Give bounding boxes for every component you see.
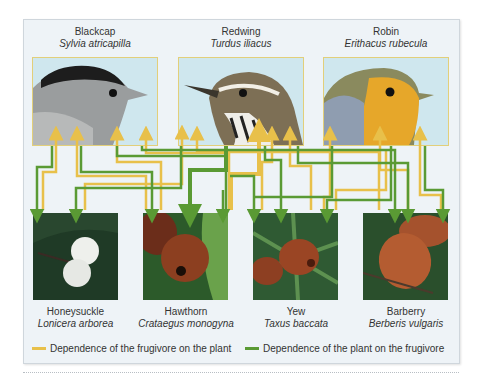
plant-scientific-name: Berberis vulgaris <box>355 318 457 330</box>
plant-scientific-name: Crataegus monogyna <box>128 318 244 330</box>
plant-common-name: Barberry <box>355 306 457 318</box>
plant-label-barberry: Barberry Berberis vulgaris <box>355 306 457 330</box>
green-swatch-icon <box>245 347 259 350</box>
yellow-swatch-icon <box>32 347 46 350</box>
plant-common-name: Yew <box>246 306 346 318</box>
dotted-divider <box>23 372 459 373</box>
legend-plant-dependence: Dependence of the plant on the frugivore <box>245 343 444 354</box>
plant-label-yew: Yew Taxus baccata <box>246 306 346 330</box>
legend-frugivore-dependence: Dependence of the frugivore on the plant <box>32 343 231 354</box>
plant-scientific-name: Taxus baccata <box>246 318 346 330</box>
legend-label: Dependence of the frugivore on the plant <box>50 343 231 354</box>
plant-common-name: Honeysuckle <box>23 306 128 318</box>
plant-label-hawthorn: Hawthorn Crataegus monogyna <box>128 306 244 330</box>
plant-label-honeysuckle: Honeysuckle Lonicera arborea <box>23 306 128 330</box>
legend-label: Dependence of the plant on the frugivore <box>263 343 444 354</box>
plant-common-name: Hawthorn <box>128 306 244 318</box>
plant-scientific-name: Lonicera arborea <box>23 318 128 330</box>
